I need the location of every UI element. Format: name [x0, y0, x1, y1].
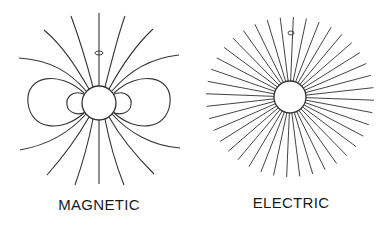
field-ray	[305, 75, 370, 92]
field-ray	[207, 99, 275, 106]
field-ray	[291, 17, 294, 81]
field-ray	[209, 101, 274, 118]
field-loop	[114, 78, 170, 125]
field-line	[109, 29, 153, 89]
field-diagram	[0, 0, 386, 226]
field-line	[44, 30, 89, 89]
field-ray	[206, 94, 274, 97]
field-ray	[306, 88, 374, 95]
electric-label: ELECTRIC	[231, 194, 351, 211]
electric-field-diagram	[206, 17, 374, 177]
field-line	[75, 119, 93, 185]
field-ray	[292, 113, 300, 177]
field-loop	[28, 78, 84, 125]
magnetic-label: MAGNETIC	[39, 196, 159, 213]
field-ray	[287, 113, 290, 177]
field-line	[112, 55, 179, 91]
magnetic-sphere	[82, 86, 116, 120]
field-ray	[294, 112, 312, 174]
field-line	[105, 119, 124, 185]
magnetic-field-diagram	[19, 13, 180, 185]
field-ray	[267, 20, 285, 82]
electric-sphere	[274, 81, 306, 113]
field-line	[105, 16, 125, 87]
field-ray	[280, 18, 288, 82]
field-ray	[306, 98, 374, 101]
